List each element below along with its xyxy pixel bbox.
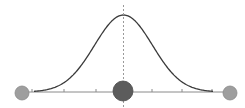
left-endpoint-marker bbox=[15, 86, 29, 100]
right-endpoint-marker bbox=[223, 86, 237, 100]
bell-curve-diagram bbox=[0, 0, 245, 108]
center-mean-marker bbox=[113, 81, 133, 101]
